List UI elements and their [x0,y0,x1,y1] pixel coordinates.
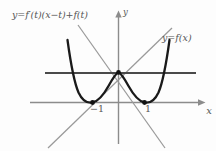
x-axis-label: x [206,106,212,116]
x-tick-label-positive-one: 1 [145,104,151,114]
x-axis [30,99,206,106]
curve-name-label: y=f(x) [162,33,192,43]
point-local-max-origin [116,70,121,75]
figure-canvas: y=f′(t)(x−t)+f(t) y=f(x) x y −1 1 [0,0,216,151]
x-tick-label-negative-one: −1 [90,104,104,114]
y-axis-label: y [123,8,128,17]
tangent-line-right [48,28,172,148]
plot-svg [0,0,216,151]
tangent-line-left [78,25,165,148]
tangent-line-formula-label: y=f′(t)(x−t)+f(t) [12,10,88,20]
